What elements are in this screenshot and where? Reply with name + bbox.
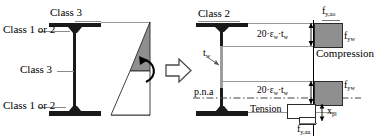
tension-label: Tension (250, 104, 282, 114)
upper-flange-yield-stress-label: fy,ao (322, 6, 335, 17)
lower-web-yield-stress-label: fyw (344, 80, 355, 91)
upper-web-depth-dimension: 20·εw·tw (257, 30, 288, 41)
upper-web-yield-stress-label: fyw (344, 31, 355, 42)
upper-dim-sub2: w (284, 34, 288, 40)
left-label-bottom-flange: Class 1 or 2 (3, 100, 55, 111)
web-thickness-leader-arrow (207, 57, 223, 67)
leader-class2 (198, 21, 240, 22)
leader-fyau (299, 123, 317, 124)
upper-compression-stress-block (314, 23, 343, 48)
fyau-subscript: y,au (300, 128, 310, 135)
right-bottom-flange (196, 111, 248, 116)
figure-canvas: Class 3 Class 1 or 2 Class 3 Class 1 or … (0, 0, 382, 140)
plastic-depth-dimension-arrow (318, 104, 327, 122)
left-label-top-flange-alt: Class 1 or 2 (3, 24, 55, 35)
right-web-upper-effective (220, 26, 223, 46)
fyw-lower-subscript: yw (347, 84, 355, 91)
left-bottom-flange (49, 111, 101, 116)
fyw-upper-subscript: yw (347, 35, 355, 42)
right-label-top-flange: Class 2 (198, 8, 230, 19)
lower-flange-yield-stress-label: fy,au (297, 124, 310, 135)
plastic-depth-label: xpl (327, 106, 337, 117)
plastic-neutral-axis-label: p.n.a (194, 87, 213, 97)
left-label-web: Class 3 (20, 64, 52, 75)
lower-dim-sub2: w (284, 90, 288, 96)
transformation-arrow-icon (166, 58, 192, 84)
fyao-subscript: y,ao (325, 10, 335, 17)
left-label-top-flange: Class 3 (50, 7, 82, 18)
xpl-subscript: pl (332, 110, 337, 117)
lower-dim-text: 20·ε (257, 85, 274, 95)
left-web (73, 26, 76, 111)
compression-label: Compression (316, 48, 374, 59)
leader-fyao (322, 20, 340, 21)
leader-web-class3 (57, 71, 74, 72)
upper-dim-text: 20·ε (257, 29, 274, 39)
lower-web-depth-dimension: 20·εw·tw (257, 86, 288, 97)
rotation-arrow-icon (136, 56, 160, 88)
lower-compression-stress-block (314, 81, 343, 106)
leader-top-flange-class3 (75, 21, 101, 22)
